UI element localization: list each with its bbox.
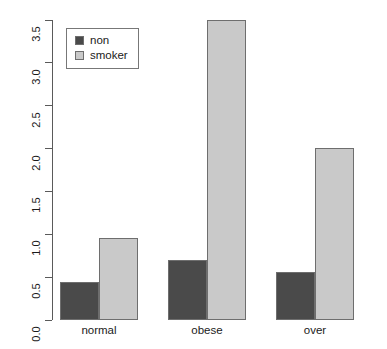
legend-swatch-smoker: [75, 51, 84, 60]
y-axis-tick: [45, 20, 52, 21]
bar-over-non: [276, 272, 315, 320]
y-axis-tick-label: 2.5: [30, 105, 42, 135]
y-axis-tick: [45, 277, 52, 278]
y-axis-tick-label: 3.0: [30, 62, 42, 92]
y-axis-line: [52, 20, 53, 320]
legend-item-non: non: [75, 35, 109, 47]
legend: non smoker: [66, 28, 139, 69]
y-axis-tick-label: 3.5: [30, 19, 42, 49]
y-axis-tick-label: 1.5: [30, 190, 42, 220]
y-axis-tick-label: 2.0: [30, 148, 42, 178]
legend-label-smoker: smoker: [90, 50, 128, 62]
y-axis-tick: [45, 234, 52, 235]
bar-normal-smoker: [99, 238, 138, 320]
bar-obese-smoker: [207, 20, 246, 320]
y-axis-tick-label: 0.5: [30, 276, 42, 306]
bar-normal-non: [60, 282, 99, 320]
legend-swatch-non: [75, 36, 84, 45]
y-axis-tick: [45, 148, 52, 149]
y-axis-tick: [45, 62, 52, 63]
y-axis-tick-label: 1.0: [30, 233, 42, 263]
y-axis-tick: [45, 191, 52, 192]
x-axis-label-obese: obese: [191, 324, 222, 336]
legend-item-smoker: smoker: [75, 50, 128, 62]
legend-label-non: non: [90, 35, 109, 47]
bar-obese-non: [168, 260, 207, 320]
y-axis-tick-label: 0.0: [30, 319, 42, 349]
x-axis-label-over: over: [304, 324, 326, 336]
bar-over-smoker: [315, 148, 354, 320]
x-axis-label-normal: normal: [81, 324, 116, 336]
y-axis-tick: [45, 105, 52, 106]
y-axis-tick: [45, 320, 52, 321]
bar-chart: 0.00.51.01.52.02.53.03.5 normalobeseover…: [0, 0, 387, 349]
plot-area: 0.00.51.01.52.02.53.03.5 normalobeseover…: [0, 0, 387, 349]
